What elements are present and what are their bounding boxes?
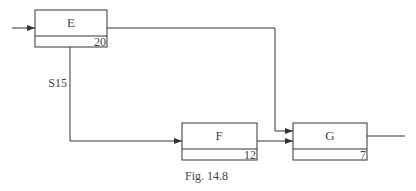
node-f: F 12 <box>182 123 257 162</box>
node-g-label: G <box>325 128 334 143</box>
edge-e-to-f <box>70 47 182 141</box>
node-e: E 20 <box>35 10 107 49</box>
figure-caption: Fig. 14.8 <box>185 169 228 183</box>
node-g: G 7 <box>293 123 367 162</box>
node-g-duration: 7 <box>360 148 366 162</box>
edge-e-to-g <box>107 28 293 131</box>
node-e-label: E <box>67 15 75 30</box>
node-e-duration: 20 <box>94 35 106 49</box>
node-f-label: F <box>215 128 222 143</box>
precedence-diagram: E 20 S15 F 12 G 7 Fig. 14.8 <box>0 0 416 191</box>
edge-e-to-f-label: S15 <box>48 76 67 90</box>
node-f-duration: 12 <box>244 148 256 162</box>
